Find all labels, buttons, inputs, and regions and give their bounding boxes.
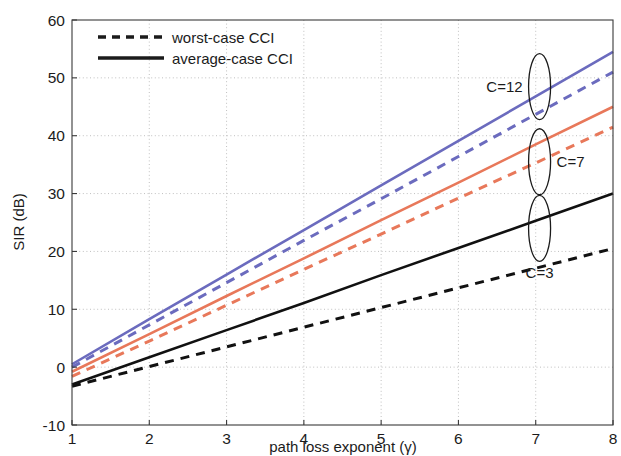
y-tick-label: 10: [48, 301, 66, 318]
series-C3-solid: [72, 194, 613, 385]
series-C12-dashed: [72, 72, 613, 367]
y-tick-label: 0: [56, 359, 65, 376]
ellipse-marker-C12: [529, 54, 551, 120]
chart-legend: worst-case CCIaverage-case CCI: [98, 29, 293, 67]
legend-label: worst-case CCI: [171, 29, 275, 46]
x-axis-label: path loss exponent (γ): [269, 438, 417, 455]
y-tick-label: -10: [43, 417, 66, 434]
annotation-label-C12: C=12: [486, 78, 522, 95]
series-C7-solid: [72, 107, 613, 372]
annotation-label-C3: C=3: [526, 264, 554, 281]
x-tick-label: 6: [454, 430, 463, 447]
annotation-label-C7: C=7: [557, 153, 585, 170]
x-tick-label: 2: [145, 430, 154, 447]
axis-tick-labels: 12345678-100102030405060: [43, 12, 618, 448]
sir-vs-path-loss-exponent-chart: 12345678-100102030405060 SIR (dB) path l…: [0, 0, 621, 456]
x-tick-label: 3: [222, 430, 231, 447]
data-series-group: [72, 52, 613, 386]
y-tick-label: 60: [48, 12, 66, 29]
ellipse-marker-C3: [529, 195, 551, 261]
legend-label: average-case CCI: [172, 50, 293, 67]
chart-figure: 12345678-100102030405060 SIR (dB) path l…: [0, 0, 621, 456]
y-tick-label: 40: [48, 127, 66, 144]
x-tick-label: 1: [68, 430, 77, 447]
y-axis-label: SIR (dB): [10, 193, 27, 251]
y-tick-label: 30: [48, 185, 66, 202]
y-tick-label: 20: [48, 243, 66, 260]
x-tick-label: 7: [531, 430, 540, 447]
x-tick-label: 8: [609, 430, 618, 447]
y-tick-label: 50: [48, 69, 66, 86]
